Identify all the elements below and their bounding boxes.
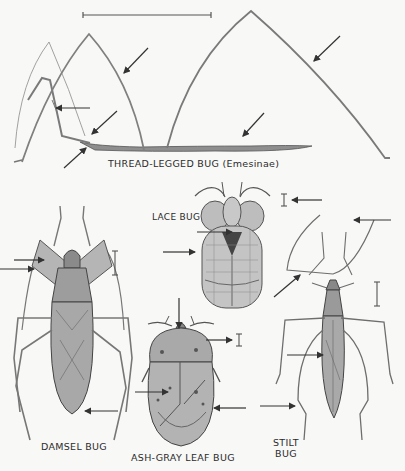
- insect-plate: THREAD-LEGGED BUG (Emesinae) LACE BUG DA…: [0, 0, 405, 471]
- label-stilt-bug: STILT BUG: [273, 437, 299, 459]
- plate-illustration: [0, 0, 405, 471]
- lace-bug-figure: [163, 182, 322, 308]
- damsel-bug-figure: [0, 206, 132, 440]
- stilt-bug-figure: [260, 215, 393, 440]
- label-stilt-bug-line2: BUG: [273, 448, 299, 459]
- label-damsel-bug: DAMSEL BUG: [41, 441, 107, 452]
- label-stilt-bug-line1: STILT: [273, 437, 299, 448]
- thread-legged-bug-figure: [14, 11, 390, 168]
- label-ash-gray-leaf-bug: ASH-GRAY LEAF BUG: [131, 452, 235, 463]
- scale-bar-thread-legged: [83, 12, 211, 18]
- label-lace-bug: LACE BUG: [152, 212, 200, 223]
- ash-gray-leaf-bug-figure: [135, 298, 246, 446]
- label-thread-legged-bug: THREAD-LEGGED BUG (Emesinae): [108, 158, 279, 169]
